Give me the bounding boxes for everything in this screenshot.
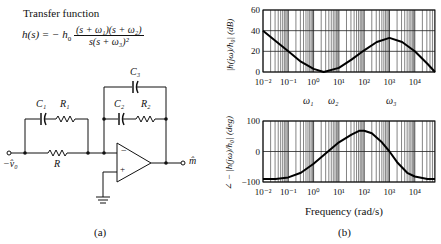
- magnitude-ylabel-wrap: |h(jω)/h₀| (dB): [222, 10, 236, 86]
- frequency-xlabel: Frequency (rad/s): [305, 205, 383, 217]
- omega1-label: ω₁: [303, 95, 314, 106]
- svg-text:100: 100: [247, 116, 261, 126]
- svg-text:10¹: 10¹: [333, 187, 345, 197]
- omega2-label: ω₂: [328, 95, 339, 106]
- svg-text:10⁻¹: 10⁻¹: [280, 77, 297, 87]
- svg-text:10⁻²: 10⁻²: [255, 187, 272, 197]
- svg-text:10²: 10²: [358, 187, 370, 197]
- svg-text:10⁻¹: 10⁻¹: [280, 187, 297, 197]
- svg-text:−100: −100: [241, 177, 260, 187]
- magnitude-ylabel: |h(jω)/h₀| (dB): [225, 7, 235, 83]
- svg-text:0: 0: [256, 147, 261, 157]
- svg-text:10¹: 10¹: [333, 77, 345, 87]
- svg-text:0: 0: [256, 67, 261, 77]
- svg-text:60: 60: [251, 5, 261, 15]
- svg-text:10³: 10³: [384, 187, 396, 197]
- svg-text:10⁰: 10⁰: [307, 77, 320, 87]
- svg-text:10³: 10³: [384, 77, 396, 87]
- svg-text:10²: 10²: [358, 77, 370, 87]
- svg-text:20: 20: [251, 46, 261, 56]
- phase-ylabel: ∠ − |h(jω)/h₀| (deg): [224, 108, 234, 198]
- svg-text:10⁴: 10⁴: [409, 77, 421, 87]
- omega3-label: ω₃: [386, 95, 397, 106]
- svg-text:40: 40: [251, 26, 261, 36]
- svg-text:10⁰: 10⁰: [307, 187, 320, 197]
- svg-text:10⁴: 10⁴: [409, 187, 421, 197]
- caption-b: (b): [338, 226, 351, 238]
- phase-ylabel-wrap: ∠ − |h(jω)/h₀| (deg): [222, 110, 236, 200]
- svg-text:10⁻²: 10⁻²: [255, 77, 272, 87]
